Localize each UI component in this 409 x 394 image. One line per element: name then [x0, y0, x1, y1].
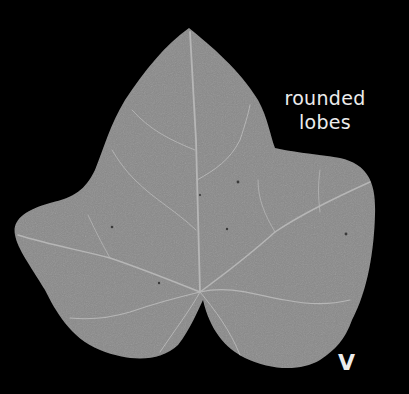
leaf-image [0, 0, 409, 394]
panel-letter: V [338, 350, 355, 375]
leaf-blade [15, 28, 376, 368]
label-line-1: rounded [280, 86, 370, 110]
figure-panel: rounded lobes V [0, 0, 409, 394]
label-line-2: lobes [280, 110, 370, 134]
rounded-lobes-label: rounded lobes [280, 86, 370, 134]
